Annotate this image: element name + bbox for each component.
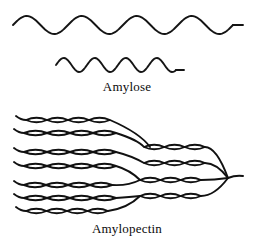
alpha-1-6-branch-link-3 xyxy=(116,152,144,163)
non-reducing-end-tail xyxy=(14,162,24,166)
chain-lower-arc xyxy=(24,185,112,187)
chain-lower-arc xyxy=(24,133,116,135)
amylopectin-chain-6 xyxy=(14,194,116,200)
amylopectin-chain-1 xyxy=(16,116,110,122)
amylopectin-branch-chain-b xyxy=(144,161,205,166)
chain-upper-arc xyxy=(144,145,205,147)
starch-diagram-canvas xyxy=(0,0,254,245)
non-reducing-end-tail xyxy=(14,194,24,198)
amylose-illustration xyxy=(13,16,243,72)
chain-upper-arc xyxy=(144,161,205,163)
alpha-1-6-branch-link-6 xyxy=(116,196,140,198)
chain-lower-arc xyxy=(24,198,116,200)
chain-lower-arc xyxy=(26,120,110,122)
starch-structure-figure: Amylose Amylopectin xyxy=(0,0,254,245)
amylopectin-caption: Amylopectin xyxy=(0,221,254,237)
chain-lower-arc xyxy=(140,196,201,198)
non-reducing-end-tail xyxy=(14,148,24,152)
amylopectin-chain-7 xyxy=(16,207,108,213)
chain-lower-arc xyxy=(144,147,205,149)
amylose-caption: Amylose xyxy=(0,79,254,95)
amylose-upper-strand xyxy=(13,16,243,34)
amylopectin-chain-2 xyxy=(14,129,116,135)
chain-upper-arc xyxy=(140,178,201,180)
chain-lower-arc xyxy=(140,180,201,182)
chain-lower-arc xyxy=(144,163,205,165)
alpha-1-6-branch-link-5 xyxy=(112,180,140,185)
amylose-strand-curve xyxy=(13,16,233,34)
convergence-link-3 xyxy=(201,178,228,180)
alpha-1-6-branch-link-4 xyxy=(116,166,140,180)
amylopectin-branch-chain-d xyxy=(140,194,201,199)
chain-lower-arc xyxy=(24,152,116,154)
amylopectin-chain-5 xyxy=(14,181,112,187)
reducing-end-tail xyxy=(228,176,243,178)
amylopectin-chain-3 xyxy=(14,148,116,154)
chain-lower-arc xyxy=(24,166,116,168)
chain-lower-arc xyxy=(26,211,108,213)
amylopectin-illustration xyxy=(14,116,243,213)
alpha-1-6-branch-link-2 xyxy=(116,133,144,147)
amylopectin-branch-chain-a xyxy=(144,145,205,150)
amylopectin-branch-chain-c xyxy=(140,178,201,183)
non-reducing-end-tail xyxy=(16,116,26,120)
non-reducing-end-tail xyxy=(14,129,24,133)
amylopectin-chain-4 xyxy=(14,162,116,168)
amylose-strand-curve xyxy=(56,58,176,72)
chain-upper-arc xyxy=(140,194,201,196)
amylose-lower-strand xyxy=(56,58,184,72)
non-reducing-end-tail xyxy=(16,207,26,211)
non-reducing-end-tail xyxy=(14,181,24,185)
